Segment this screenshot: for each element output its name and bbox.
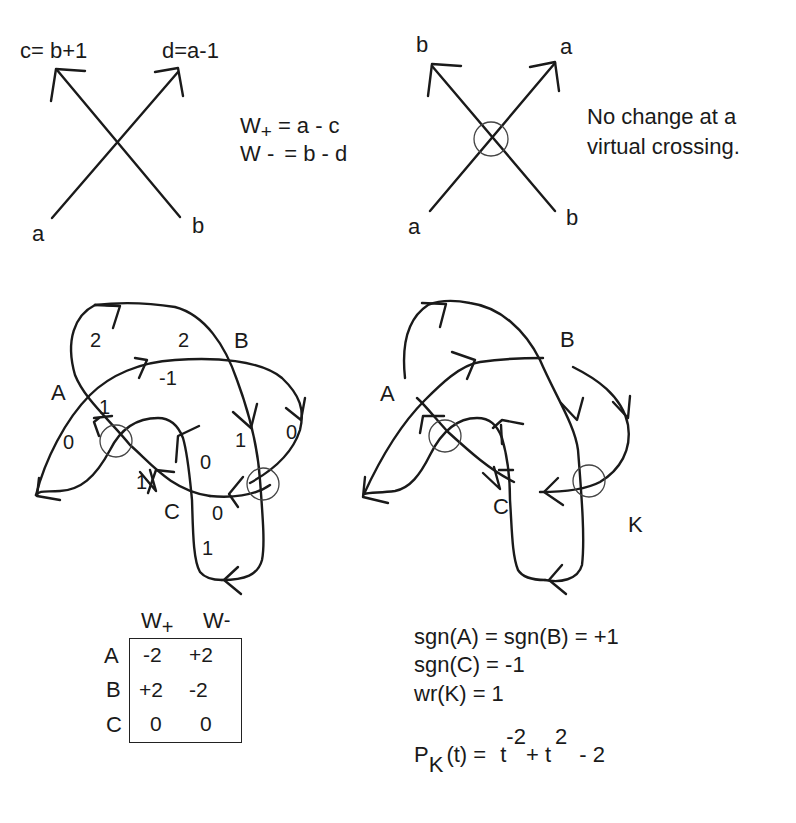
virtual-crossing bbox=[428, 62, 559, 211]
label-bottom-left-a: a bbox=[408, 216, 420, 238]
label-top-left-b: b bbox=[416, 34, 428, 56]
arrowhead-icon bbox=[94, 418, 99, 436]
crossing-label-c: C bbox=[164, 501, 180, 523]
arc-weight: 0 bbox=[286, 422, 297, 442]
crossing-label-a: A bbox=[51, 382, 66, 404]
virtual-note-line2: virtual crossing. bbox=[587, 134, 740, 160]
arrowhead-icon bbox=[229, 477, 243, 507]
arc-weight: -1 bbox=[159, 368, 177, 388]
crossing-label-c: C bbox=[493, 496, 509, 518]
writhe-equation: wr(K) = 1 bbox=[414, 681, 504, 707]
right-knot-diagram bbox=[363, 301, 630, 594]
crossing-label-a: A bbox=[380, 383, 395, 405]
row-label-c: C bbox=[106, 714, 122, 736]
knot-name-k: K bbox=[628, 514, 643, 536]
label-d: d=a-1 bbox=[162, 40, 219, 62]
strand-a-to-d bbox=[52, 72, 178, 218]
arc-weight: 0 bbox=[212, 503, 223, 523]
arc-weight: 0 bbox=[200, 452, 211, 472]
affine-polynomial: PK(t) = t-2+ t2- 2 bbox=[414, 742, 605, 768]
arc-weight: 1 bbox=[99, 397, 110, 417]
virtual-note-line1: No change at a bbox=[587, 104, 736, 130]
arc-weight: 2 bbox=[90, 330, 101, 350]
label-a: a bbox=[32, 223, 44, 245]
arc-weight: 0 bbox=[63, 432, 74, 452]
cell-a-wplus: -2 bbox=[143, 644, 162, 665]
arc-weight: 1 bbox=[235, 430, 246, 450]
cell-a-wminus: +2 bbox=[189, 644, 213, 665]
table-header-wplus: W+ bbox=[141, 610, 173, 632]
label-bottom-right-b: b bbox=[566, 207, 578, 229]
crossing-label-b: B bbox=[560, 329, 575, 351]
cell-c-wplus: 0 bbox=[150, 713, 162, 734]
row-label-a: A bbox=[104, 645, 119, 667]
label-b: b bbox=[192, 215, 204, 237]
cell-b-wminus: -2 bbox=[189, 679, 208, 700]
weight-table: -2 +2 +2 -2 0 0 bbox=[129, 638, 242, 743]
arc-weight: 1 bbox=[136, 472, 147, 492]
label-top-right-a: a bbox=[560, 36, 572, 58]
arrowhead-icon bbox=[286, 398, 305, 420]
arrowhead-icon bbox=[233, 404, 257, 428]
classical-crossing bbox=[51, 68, 183, 218]
virtual-crossing-circle-icon bbox=[429, 420, 461, 452]
formula-w-plus: W+= a - c bbox=[240, 113, 340, 140]
sign-equation-ab: sgn(A) = sgn(B) = +1 bbox=[414, 624, 619, 650]
sign-equation-c: sgn(C) = -1 bbox=[414, 652, 525, 678]
label-c: c= b+1 bbox=[20, 40, 87, 62]
arrowhead-icon bbox=[106, 305, 120, 328]
arc-weight: 1 bbox=[202, 538, 213, 558]
arc-weight: 2 bbox=[178, 330, 189, 350]
arrowhead-icon bbox=[493, 420, 523, 428]
left-knot-diagram bbox=[36, 303, 305, 594]
crossing-label-b: B bbox=[234, 330, 249, 352]
virtual-crossing-circle-icon bbox=[247, 468, 279, 500]
strand-b-to-b bbox=[432, 66, 555, 211]
arrowhead-icon bbox=[452, 352, 475, 379]
cell-c-wminus: 0 bbox=[200, 713, 212, 734]
cell-b-wplus: +2 bbox=[139, 679, 163, 700]
formula-w-minus: W -= b - d bbox=[240, 141, 347, 167]
table-header-wminus: W- bbox=[203, 610, 230, 632]
row-label-b: B bbox=[106, 679, 121, 701]
